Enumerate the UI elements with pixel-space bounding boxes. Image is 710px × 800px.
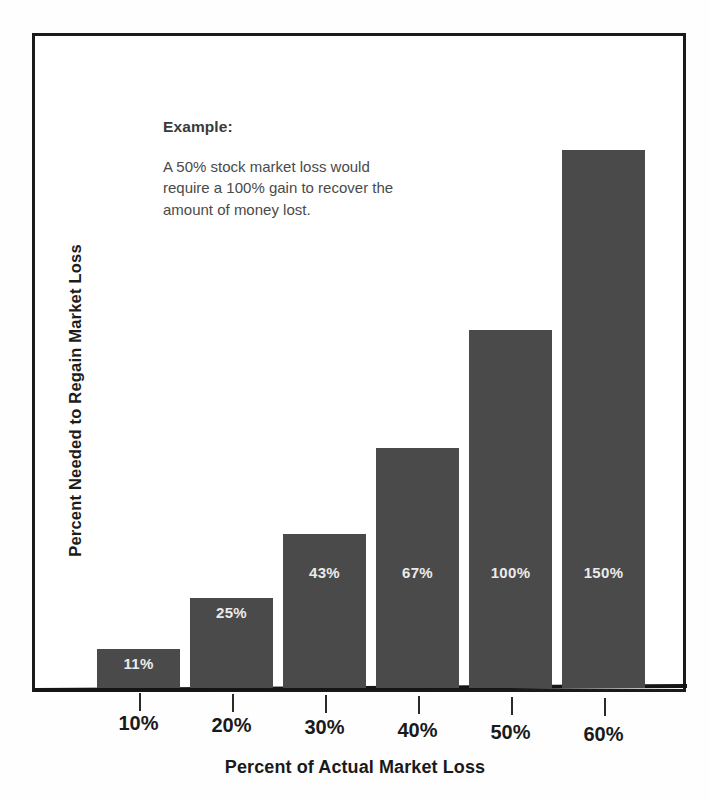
bar-value-label: 100% (469, 564, 552, 581)
bar-value-label: 25% (190, 604, 273, 621)
x-axis-tick (232, 694, 234, 712)
bar-50pct: 100% (469, 330, 552, 689)
bar-value-label: 67% (376, 564, 459, 581)
bar-60pct: 150% (562, 150, 645, 688)
x-axis-tick-label: 50% (471, 721, 551, 744)
bar-value-label: 43% (283, 564, 366, 581)
x-axis-tick-label: 30% (285, 716, 365, 739)
bar-30pct: 43% (283, 534, 366, 688)
y-axis-title: Percent Needed to Regain Market Loss (66, 171, 85, 631)
bar-value-label: 11% (97, 655, 180, 672)
plot-area: 11%10%25%20%43%30%67%40%100%50%150%60% (97, 36, 677, 691)
bar-20pct: 25% (190, 598, 273, 688)
x-axis-tick (604, 698, 606, 716)
x-axis-title: Percent of Actual Market Loss (0, 757, 710, 778)
x-axis-tick (511, 697, 513, 715)
bar-40pct: 67% (376, 448, 459, 688)
x-axis-tick (418, 696, 420, 714)
bar-value-label: 150% (562, 564, 645, 581)
chart-frame: Example: A 50% stock market loss would r… (32, 33, 686, 692)
x-axis-tick-label: 40% (378, 719, 458, 742)
x-axis-tick-label: 10% (99, 712, 179, 735)
x-axis-tick-label: 60% (564, 723, 644, 746)
x-axis-tick (325, 695, 327, 713)
x-axis-tick-label: 20% (192, 714, 272, 737)
x-axis-tick (139, 693, 141, 711)
bar-10pct: 11% (97, 649, 180, 688)
